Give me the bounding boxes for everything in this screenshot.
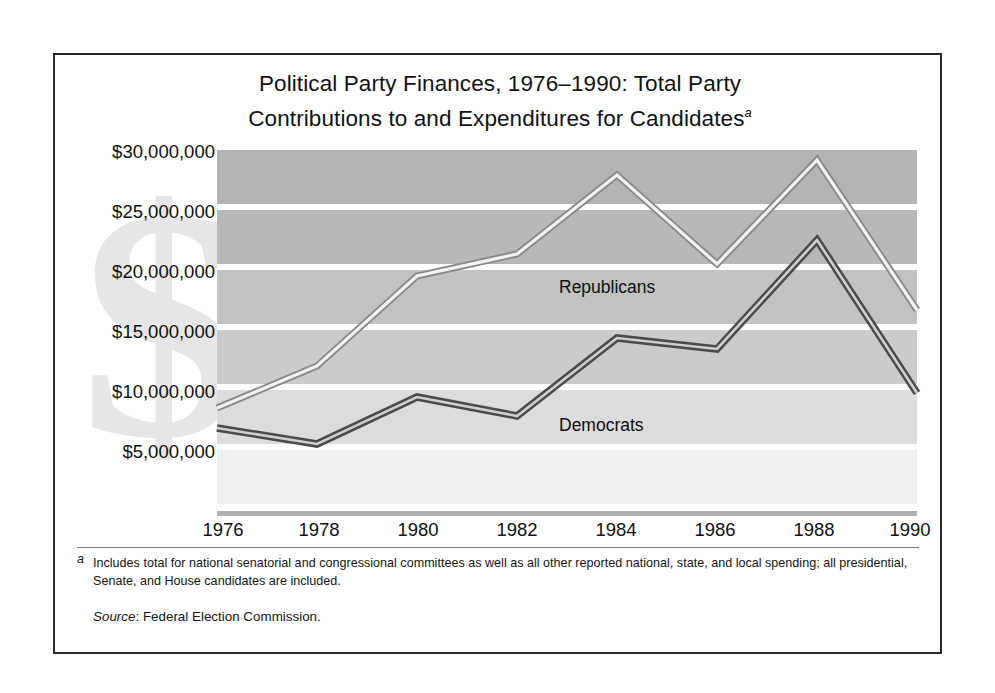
source-line: Source: Federal Election Commission.: [77, 609, 917, 624]
x-tick-1990: 1990: [889, 519, 930, 541]
figure-frame: Political Party Finances, 1976–1990: Tot…: [53, 53, 942, 654]
footnote: a Includes total for national senatorial…: [77, 555, 917, 590]
footnote-marker: a: [77, 551, 84, 569]
series-label-democrats: Democrats: [559, 415, 644, 436]
x-axis-line: [217, 511, 917, 516]
source-label: Source: [93, 609, 135, 624]
y-tick-10m: $10,000,000: [67, 381, 215, 403]
y-tick-25m: $25,000,000: [67, 201, 215, 223]
y-tick-20m: $20,000,000: [67, 261, 215, 283]
y-tick-5m: $5,000,000: [67, 441, 215, 463]
y-tick-15m: $15,000,000: [67, 321, 215, 343]
x-tick-1988: 1988: [793, 519, 834, 541]
footnote-text: Includes total for national senatorial a…: [93, 556, 907, 588]
x-axis-labels: 1976 1978 1980 1982 1984 1986 1988 1990: [55, 519, 944, 549]
source-text: : Federal Election Commission.: [135, 609, 320, 624]
figure-notes: a Includes total for national senatorial…: [77, 555, 917, 624]
notes-divider: [77, 547, 919, 548]
series-label-republicans: Republicans: [559, 277, 655, 298]
x-tick-1986: 1986: [694, 519, 735, 541]
y-tick-30m: $30,000,000: [67, 141, 215, 163]
x-tick-1982: 1982: [496, 519, 537, 541]
x-tick-1976: 1976: [202, 519, 243, 541]
x-tick-1978: 1978: [298, 519, 339, 541]
x-tick-1984: 1984: [595, 519, 636, 541]
x-tick-1980: 1980: [397, 519, 438, 541]
